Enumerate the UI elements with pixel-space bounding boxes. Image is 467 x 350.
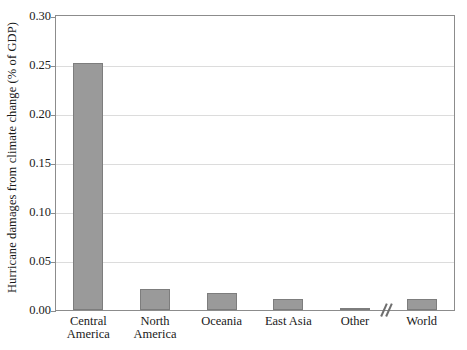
hurricane-damages-bar-chart: Hurricane damages from climate change (%… — [0, 0, 467, 350]
y-axis-tick-label: 0.20 — [18, 108, 51, 121]
y-axis-tick-mark — [51, 164, 56, 165]
gridline — [56, 213, 454, 214]
x-axis-tick-label: Oceania — [188, 315, 255, 328]
x-axis-tick-label: Other — [322, 315, 389, 328]
x-axis-tick-label: East Asia — [255, 315, 322, 328]
y-axis-tick-mark — [51, 213, 56, 214]
y-axis-tick-label: 0.00 — [18, 304, 51, 317]
y-axis-tick-labels: 0.300.250.200.150.100.050.00 — [18, 15, 51, 311]
gridline — [56, 164, 454, 165]
y-axis-tick-mark — [51, 262, 56, 263]
y-axis-tick-label: 0.05 — [18, 255, 51, 268]
x-axis-tick-label: Central America — [55, 315, 122, 341]
y-axis-tick-mark — [51, 17, 56, 18]
y-axis-tick-mark — [51, 311, 56, 312]
gridline — [56, 115, 454, 116]
y-axis-tick-mark — [51, 115, 56, 116]
plot-area — [55, 15, 455, 311]
y-axis-tick-mark — [51, 66, 56, 67]
y-axis-tick-label: 0.10 — [18, 206, 51, 219]
y-axis-tick-label: 0.25 — [18, 59, 51, 72]
x-axis-tick-label: World — [388, 315, 455, 328]
y-axis-tick-label: 0.15 — [18, 157, 51, 170]
gridline — [56, 262, 454, 263]
x-axis-tick-label: North America — [122, 315, 189, 341]
x-axis-tick-labels: Central AmericaNorth AmericaOceaniaEast … — [55, 315, 455, 350]
y-axis-tick-label: 0.30 — [18, 10, 51, 23]
gridline — [56, 66, 454, 67]
